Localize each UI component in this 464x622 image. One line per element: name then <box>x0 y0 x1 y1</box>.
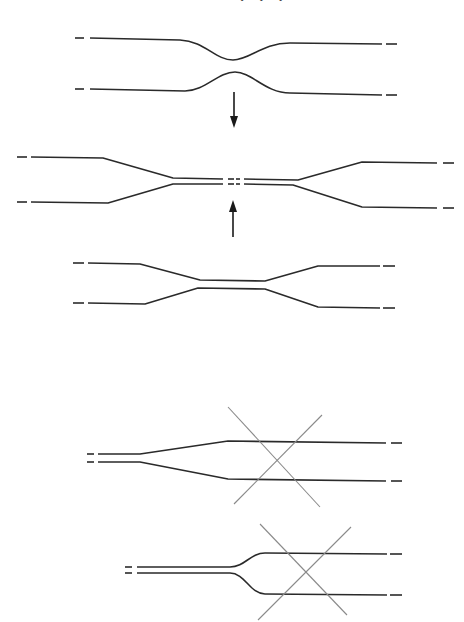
figure-e-abrupt-ybranch <box>125 524 402 620</box>
guide-top <box>90 38 382 60</box>
cross-out-icon <box>258 524 351 620</box>
guide-bottom <box>88 288 380 308</box>
guide-top <box>137 553 387 567</box>
guide-bottom <box>90 72 382 95</box>
guide-top-right <box>244 162 437 180</box>
guide-bottom-left <box>31 184 223 203</box>
guide-bottom <box>98 462 386 481</box>
diagram-canvas <box>0 0 464 622</box>
guide-top-left <box>31 157 223 179</box>
arrow-down-icon <box>230 92 238 128</box>
guide-bottom <box>137 573 387 595</box>
figure-b-long-taper <box>17 157 454 237</box>
guide-bottom-right <box>244 184 437 208</box>
figure-c-short-taper <box>73 263 395 308</box>
figure-a-curved-approach <box>75 38 397 128</box>
guide-top <box>98 441 386 454</box>
guide-top <box>88 263 380 281</box>
figure-d-linear-ybranch <box>87 407 402 507</box>
arrow-up-icon <box>229 200 237 237</box>
cross-out-icon <box>228 407 322 507</box>
